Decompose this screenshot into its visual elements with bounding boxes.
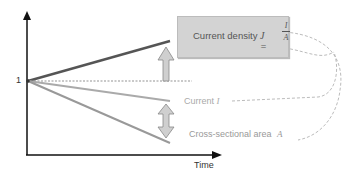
current-density-line (28, 41, 170, 81)
current-symbol: I (217, 96, 220, 106)
origin-point (26, 79, 30, 83)
y-axis-arrow-icon (23, 11, 31, 20)
increase-arrow-icon (158, 47, 174, 81)
area-connector-top (285, 48, 334, 55)
current-label-text: Current (184, 96, 214, 106)
current-label: Current I (184, 96, 220, 106)
numerator: I (285, 21, 288, 30)
formula-lhs: J = (260, 30, 267, 52)
double-arrow-icon (158, 104, 174, 138)
y-tick-label: 1 (16, 75, 21, 85)
denominator: A (284, 33, 289, 42)
x-axis-label: Time (194, 160, 214, 170)
area-label-text: Cross-sectional area (189, 129, 272, 139)
current-connector (232, 52, 337, 101)
box-label: Current density (193, 30, 257, 41)
area-label: Cross-sectional area A (189, 129, 283, 139)
current-density-box: Current density J = I A (177, 16, 289, 58)
x-axis-arrow-icon (212, 151, 222, 159)
fraction: I A (282, 21, 290, 42)
area-symbol: A (277, 129, 283, 139)
